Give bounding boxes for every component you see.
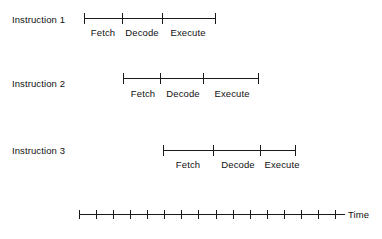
time-axis-tick-4 [147, 210, 148, 219]
timeline-tick-instruction-3-3 [295, 145, 296, 156]
time-axis-tick-11 [267, 210, 268, 219]
timeline-spine-instruction-3 [163, 150, 295, 151]
time-axis-tick-14 [318, 210, 319, 219]
timeline-instruction-3 [163, 145, 295, 157]
time-axis-tick-3 [130, 210, 131, 219]
stage-label-instruction-2-execute: Execute [214, 88, 249, 99]
time-axis-spine [79, 214, 345, 215]
stage-label-instruction-1-fetch: Fetch [91, 27, 115, 38]
time-axis-tick-2 [113, 210, 114, 219]
timeline-tick-instruction-2-3 [258, 73, 259, 84]
time-axis-tick-15 [335, 210, 336, 219]
time-axis-tick-12 [284, 210, 285, 219]
time-axis-tick-0 [79, 210, 80, 219]
row-label-instruction-2: Instruction 2 [12, 78, 65, 89]
row-label-instruction-3: Instruction 3 [12, 145, 65, 156]
stage-label-instruction-3-decode: Decode [221, 159, 254, 170]
timeline-instruction-1 [84, 13, 215, 25]
stage-label-instruction-2-decode: Decode [166, 88, 199, 99]
timeline-tick-instruction-3-1 [213, 145, 214, 156]
timeline-tick-instruction-3-0 [163, 145, 164, 156]
stage-label-instruction-2-fetch: Fetch [131, 88, 155, 99]
timeline-tick-instruction-2-2 [203, 73, 204, 84]
timeline-tick-instruction-1-1 [122, 13, 123, 24]
timeline-instruction-2 [123, 73, 258, 85]
time-axis-tick-9 [233, 210, 234, 219]
timeline-spine-instruction-1 [84, 18, 215, 19]
row-label-instruction-1: Instruction 1 [12, 14, 65, 25]
time-axis-label: Time [348, 209, 369, 220]
timeline-spine-instruction-2 [123, 78, 258, 79]
time-axis [79, 209, 345, 221]
time-axis-tick-13 [301, 210, 302, 219]
timeline-tick-instruction-2-1 [160, 73, 161, 84]
stage-label-instruction-3-fetch: Fetch [176, 159, 200, 170]
timeline-tick-instruction-1-0 [84, 13, 85, 24]
pipeline-timing-diagram: Instruction 1FetchDecodeExecuteInstructi… [0, 0, 382, 239]
time-axis-tick-5 [164, 210, 165, 219]
time-axis-tick-1 [96, 210, 97, 219]
timeline-tick-instruction-1-2 [162, 13, 163, 24]
stage-label-instruction-1-decode: Decode [125, 27, 158, 38]
stage-label-instruction-1-execute: Execute [170, 27, 205, 38]
time-axis-tick-7 [198, 210, 199, 219]
timeline-tick-instruction-1-3 [215, 13, 216, 24]
timeline-tick-instruction-2-0 [123, 73, 124, 84]
time-axis-tick-10 [250, 210, 251, 219]
time-axis-tick-6 [181, 210, 182, 219]
stage-label-instruction-3-execute: Execute [264, 159, 299, 170]
time-axis-tick-8 [216, 210, 217, 219]
timeline-tick-instruction-3-2 [260, 145, 261, 156]
